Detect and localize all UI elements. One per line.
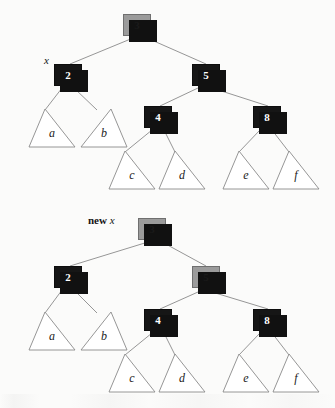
node-value: 3: [149, 224, 155, 235]
subtree-triangle-e-after: e: [222, 353, 270, 393]
pointer-label-x: x: [44, 54, 49, 66]
tree-node-8-before[interactable]: 8: [253, 106, 281, 128]
subtree-triangle-c-before: c: [108, 150, 156, 190]
subtree-triangle-f-after: f: [272, 353, 320, 393]
tree-node-3-before[interactable]: 3: [123, 14, 151, 36]
subtree-label: e: [222, 168, 270, 183]
pointer-label-new-x: new x: [88, 214, 115, 226]
subtree-triangle-b-before: b: [80, 108, 128, 148]
subtree-label: d: [158, 371, 206, 386]
tree-node-3-after[interactable]: 3: [138, 218, 166, 240]
subtree-label: a: [28, 126, 76, 141]
subtree-triangle-d-after: d: [158, 353, 206, 393]
subtree-triangle-e-before: e: [222, 150, 270, 190]
scan-artifact-strip: [0, 394, 335, 408]
subtree-triangle-b-after: b: [80, 311, 128, 351]
red-black-tree-figure: x 3 2 5 4 8 a b c d e f: [0, 0, 335, 408]
tree-node-5-after[interactable]: 5: [192, 266, 220, 288]
node-value: 8: [264, 315, 270, 326]
tree-node-8-after[interactable]: 8: [253, 309, 281, 331]
node-value: 4: [155, 315, 161, 326]
subtree-triangle-a-after: a: [28, 311, 76, 351]
tree-node-2-before[interactable]: 2: [54, 64, 82, 86]
subtree-label: c: [108, 168, 156, 183]
subtree-triangle-c-after: c: [108, 353, 156, 393]
tree-panel-before: x 3 2 5 4 8 a b c d e f: [0, 0, 335, 204]
tree-node-4-before[interactable]: 4: [144, 106, 172, 128]
subtree-label: c: [108, 371, 156, 386]
pointer-x-text: x: [44, 54, 49, 66]
subtree-triangle-f-before: f: [272, 150, 320, 190]
subtree-label: d: [158, 168, 206, 183]
node-value: 4: [155, 112, 161, 123]
pointer-new-text: new: [88, 214, 107, 226]
tree-node-2-after[interactable]: 2: [54, 266, 82, 288]
tree-panel-after: new x 3 2 5 4 8 a b c d e f: [0, 204, 335, 408]
subtree-triangle-a-before: a: [28, 108, 76, 148]
node-value: 2: [65, 272, 71, 283]
subtree-triangle-d-before: d: [158, 150, 206, 190]
node-value: 5: [203, 272, 209, 283]
tree-node-5-before[interactable]: 5: [192, 64, 220, 86]
node-value: 5: [203, 70, 209, 81]
subtree-label: e: [222, 371, 270, 386]
subtree-label: a: [28, 329, 76, 344]
subtree-label: b: [80, 126, 128, 141]
tree-node-4-after[interactable]: 4: [144, 309, 172, 331]
subtree-label: f: [272, 168, 320, 183]
node-value: 8: [264, 112, 270, 123]
node-value: 2: [65, 70, 71, 81]
subtree-label: f: [272, 371, 320, 386]
pointer-x-text: x: [110, 214, 115, 226]
subtree-label: b: [80, 329, 128, 344]
node-value: 3: [134, 20, 140, 31]
